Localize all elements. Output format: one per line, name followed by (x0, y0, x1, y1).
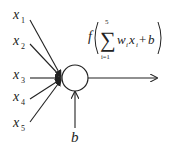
svg-text:4: 4 (21, 98, 25, 107)
input-arrow-x5 (30, 80, 61, 122)
svg-text:i: i (136, 41, 138, 49)
svg-text:1: 1 (21, 16, 25, 25)
left-paren (95, 22, 98, 54)
svg-text:x: x (128, 32, 135, 47)
svg-text:5: 5 (21, 124, 25, 133)
svg-text:x: x (12, 67, 20, 82)
svg-text:5: 5 (105, 18, 109, 26)
input-arrow-x1 (30, 20, 61, 76)
svg-text:x: x (12, 89, 20, 104)
input-label-x2: x 2 (12, 33, 25, 51)
svg-text:i: i (126, 41, 128, 49)
input-label-x5: x 5 (12, 115, 25, 133)
svg-text:b: b (148, 32, 155, 47)
input-label-x3: x 3 (12, 67, 25, 85)
svg-text:3: 3 (21, 76, 25, 85)
svg-text:∑: ∑ (100, 27, 116, 52)
svg-text:w: w (117, 32, 126, 47)
neuron-diagram: x 1 x 2 x 3 x 4 x 5 b f ∑ 5 i=1 w i x i … (0, 0, 169, 147)
input-label-x1: x 1 (12, 7, 25, 25)
neuron-node (62, 65, 88, 91)
svg-text:2: 2 (21, 42, 25, 51)
bias-label: b (71, 129, 79, 145)
svg-text:x: x (12, 7, 20, 22)
svg-text:f: f (88, 29, 94, 44)
svg-text:x: x (12, 115, 20, 130)
svg-text:i=1: i=1 (101, 53, 110, 60)
svg-text:+: + (139, 32, 146, 47)
input-label-x4: x 4 (12, 89, 25, 107)
right-paren (158, 22, 161, 54)
input-arrow-x4 (30, 79, 61, 99)
activation-formula: f ∑ 5 i=1 w i x i + b (88, 18, 161, 60)
svg-text:x: x (12, 33, 20, 48)
